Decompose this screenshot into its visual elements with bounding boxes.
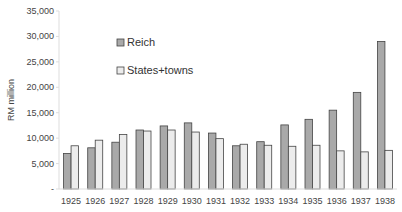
x-tick-label: 1936 [327, 196, 347, 206]
bar-reich [88, 148, 96, 189]
x-tick-label: 1932 [230, 196, 250, 206]
x-tick-label: 1931 [206, 196, 226, 206]
x-tick-label: 1925 [61, 196, 81, 206]
bar-states-towns [95, 140, 103, 189]
bar-states-towns [144, 131, 152, 189]
legend-swatch-states-towns [117, 67, 124, 74]
bar-reich [281, 125, 289, 189]
x-tick-label: 1934 [278, 196, 298, 206]
bar-states-towns [71, 146, 79, 189]
y-tick-label: 30,000 [26, 31, 54, 41]
bar-states-towns [337, 151, 345, 189]
x-tick-label: 1928 [133, 196, 153, 206]
bar-reich [257, 142, 265, 189]
bar-reich [233, 146, 241, 189]
legend-label-reich: Reich [127, 36, 155, 48]
legend: Reich States+towns [117, 36, 194, 76]
bar-reich [329, 110, 337, 189]
y-tick-label: 25,000 [26, 57, 54, 67]
y-tick-label: 35,000 [26, 6, 54, 16]
bar-reich [208, 133, 216, 189]
x-axis: 1925192619271928192919301931193219331934… [59, 189, 397, 206]
y-tick-label: 5,000 [31, 159, 54, 169]
bar-chart: -5,00010,00015,00020,00025,00030,00035,0… [0, 0, 402, 212]
x-tick-label: 1938 [375, 196, 395, 206]
x-tick-label: 1935 [302, 196, 322, 206]
y-axis-label: RM million [6, 79, 16, 121]
y-axis: -5,00010,00015,00020,00025,00030,00035,0… [26, 6, 59, 194]
bar-reich [64, 153, 71, 189]
bar-reich [112, 142, 120, 189]
bar-states-towns [192, 132, 200, 189]
legend-swatch-reich [117, 39, 124, 46]
bar-states-towns [385, 150, 393, 189]
x-tick-label: 1926 [85, 196, 105, 206]
bar-reich [136, 130, 144, 189]
legend-label-states-towns: States+towns [127, 64, 194, 76]
bar-states-towns [361, 152, 369, 189]
x-tick-label: 1930 [182, 196, 202, 206]
y-tick-label: - [51, 184, 54, 194]
y-tick-label: 20,000 [26, 82, 54, 92]
y-tick-label: 10,000 [26, 133, 54, 143]
x-tick-label: 1927 [109, 196, 129, 206]
bar-reich [305, 119, 313, 189]
bar-reich [377, 42, 385, 189]
bars [64, 42, 393, 189]
y-tick-label: 15,000 [26, 108, 54, 118]
bar-states-towns [240, 144, 248, 189]
bar-reich [160, 126, 168, 189]
bar-reich [184, 123, 192, 189]
bar-states-towns [168, 130, 176, 189]
bar-reich [353, 92, 361, 189]
x-tick-label: 1929 [158, 196, 178, 206]
x-tick-label: 1933 [254, 196, 274, 206]
bar-states-towns [216, 139, 224, 189]
bar-states-towns [313, 145, 321, 189]
bar-states-towns [288, 146, 296, 189]
bar-states-towns [119, 135, 127, 189]
x-tick-label: 1937 [351, 196, 371, 206]
bar-states-towns [264, 145, 272, 189]
